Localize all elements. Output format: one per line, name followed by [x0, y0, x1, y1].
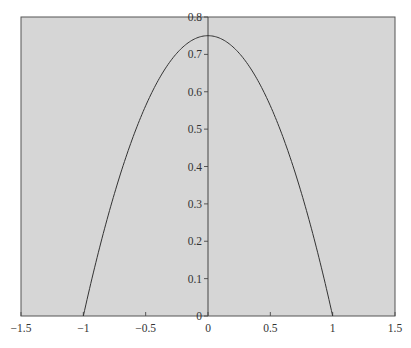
chart: −1.5−1−0.500.511.5 00.10.20.30.40.50.60.… [0, 0, 411, 348]
y-tick-label: 0.5 [188, 123, 203, 135]
x-tick-label: 0.5 [263, 322, 278, 334]
y-tick-label: 0.6 [188, 86, 203, 98]
y-tick-label: 0.2 [188, 235, 203, 247]
x-tick-label: −1 [77, 322, 89, 334]
y-tick-label: 0.3 [188, 198, 203, 210]
y-tick-label: 0.8 [188, 11, 203, 23]
y-tick-label: 0 [196, 310, 202, 322]
y-tick-label: 0.1 [188, 273, 203, 285]
x-tick-label: −1.5 [11, 322, 32, 334]
x-tick-label: −0.5 [135, 322, 156, 334]
x-tick-label: 1.5 [388, 322, 403, 334]
y-tick-label: 0.7 [188, 48, 203, 60]
y-tick-label: 0.4 [188, 161, 203, 173]
x-tick-label: 1 [330, 322, 336, 334]
x-tick-label: 0 [205, 322, 211, 334]
